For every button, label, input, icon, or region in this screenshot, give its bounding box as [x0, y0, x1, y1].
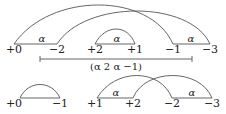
node-label: +1	[87, 98, 103, 109]
node-label: −3	[202, 44, 218, 55]
edge-label: α	[189, 88, 196, 98]
edge-label: α	[113, 88, 120, 98]
edge-label: α	[188, 34, 195, 44]
edge-label: α	[39, 34, 46, 44]
node-label: +0	[6, 44, 22, 55]
node-label: −3	[204, 98, 220, 109]
node-label: +2	[87, 44, 103, 55]
node-label: +0	[6, 98, 22, 109]
node-label: −1	[52, 98, 68, 109]
node-label: +1	[127, 44, 143, 55]
arc-b-p0-m1	[20, 85, 60, 99]
node-label: −1	[165, 44, 181, 55]
node-label: −2	[49, 44, 65, 55]
arc-b-p2-m3	[133, 76, 212, 99]
node-label: −2	[164, 98, 180, 109]
edge-label: α	[114, 34, 121, 44]
bracket-label: (α 2 α −1)	[90, 62, 142, 72]
node-label: +2	[125, 98, 141, 109]
